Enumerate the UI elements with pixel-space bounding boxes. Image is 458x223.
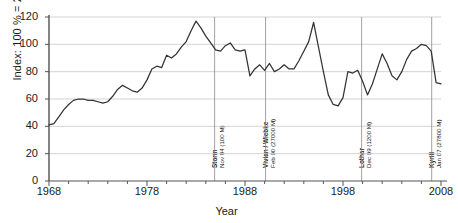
data-line-index [49,21,441,125]
